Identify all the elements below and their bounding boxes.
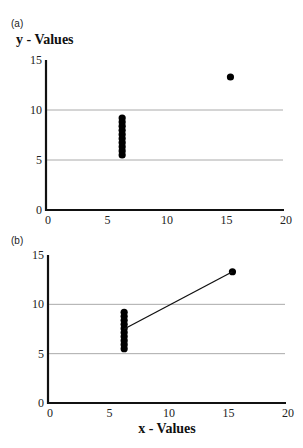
data-point [227, 73, 234, 80]
y-tick-label: 10 [30, 103, 42, 117]
y-axis-title: y - Values [16, 32, 74, 47]
data-point [119, 114, 126, 121]
x-tick-label: 15 [221, 213, 233, 227]
y-tick-label: 0 [38, 396, 44, 410]
y-tick-label: 10 [32, 297, 44, 311]
y-tick-label: 5 [36, 153, 42, 167]
x-tick-label: 5 [105, 213, 111, 227]
figure: (a) y - Values 05101505101520 (b) 051015… [0, 0, 303, 448]
x-tick-label: 20 [280, 213, 292, 227]
x-axis-title: x - Values [138, 421, 196, 436]
x-tick-label: 15 [223, 406, 235, 420]
x-tick-label: 10 [163, 406, 175, 420]
panel-a-label: (a) [11, 18, 23, 29]
panel-b-plot: 05101505101520 [32, 248, 294, 420]
fit-line [124, 272, 232, 329]
x-tick-label: 20 [282, 406, 294, 420]
panel-b-label: (b) [11, 235, 23, 246]
y-tick-label: 0 [36, 203, 42, 217]
x-tick-label: 0 [45, 213, 51, 227]
y-tick-label: 15 [30, 53, 42, 67]
data-point [121, 309, 128, 316]
y-tick-label: 5 [38, 347, 44, 361]
x-tick-label: 5 [107, 406, 113, 420]
panel-a-plot: 05101505101520 [30, 53, 292, 227]
y-tick-label: 15 [32, 248, 44, 262]
x-tick-label: 10 [161, 213, 173, 227]
x-tick-label: 0 [47, 406, 53, 420]
